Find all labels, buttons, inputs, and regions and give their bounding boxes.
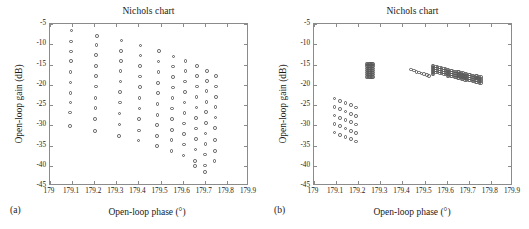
y-tick-mark (244, 105, 247, 106)
y-tick-mark (50, 85, 53, 86)
scatter-point (203, 153, 207, 157)
x-tick-mark (161, 24, 162, 27)
chart-title-a: Nichols chart (49, 6, 248, 16)
scatter-point (94, 64, 98, 68)
scatter-point (183, 101, 187, 105)
scatter-point (194, 148, 198, 152)
scatter-point (213, 126, 217, 130)
scatter-point (203, 170, 207, 174)
scatter-point (171, 65, 175, 69)
scatter-point (195, 64, 199, 68)
scatter-point (118, 90, 122, 94)
x-tick-mark (205, 181, 206, 184)
panel-label-a: (a) (10, 205, 21, 215)
x-tick-mark (138, 24, 139, 27)
x-tick-mark (72, 181, 73, 184)
scatter-point (69, 40, 73, 44)
x-tick-mark (425, 181, 426, 184)
scatter-point (194, 127, 198, 131)
scatter-point (333, 122, 337, 126)
x-tick-mark (358, 24, 359, 27)
scatter-point (156, 91, 160, 95)
chart-title-b: Nichols chart (313, 6, 512, 16)
scatter-point (344, 110, 348, 114)
scatter-point (117, 134, 121, 138)
x-tick-mark (94, 181, 95, 184)
panel-label-b: (b) (274, 205, 285, 215)
y-tick-mark (50, 105, 53, 106)
scatter-point (118, 123, 122, 127)
y-tick-mark (50, 125, 53, 126)
y-tick-mark (50, 146, 53, 147)
scatter-point (204, 132, 208, 136)
x-tick-mark (402, 24, 403, 27)
x-tick-mark (205, 24, 206, 27)
scatter-point (69, 101, 73, 105)
scatter-point (338, 124, 342, 128)
scatter-point (184, 59, 188, 63)
scatter-point (157, 70, 161, 74)
x-tick-mark (358, 181, 359, 184)
x-tick-mark (50, 181, 51, 184)
scatter-point (195, 95, 199, 99)
y-axis-title-b: Open-loop gain (dB) (278, 23, 288, 185)
x-tick-mark (116, 181, 117, 184)
scatter-point (203, 164, 207, 168)
scatter-point (344, 118, 348, 122)
scatter-point (70, 29, 74, 33)
scatter-point (195, 74, 199, 78)
scatter-point (204, 142, 208, 146)
scatter-point (213, 159, 217, 163)
y-tick-mark (244, 44, 247, 45)
x-tick-mark (380, 24, 381, 27)
scatter-point (68, 124, 72, 128)
scatter-point (194, 116, 198, 120)
y-tick-mark (50, 44, 53, 45)
scatter-point (338, 99, 342, 103)
scatter-point (69, 50, 73, 54)
scatter-point (349, 120, 353, 124)
plot-area-b (314, 24, 511, 184)
nichols-chart-figure: Nichols chart 179179.1179.2179.3179.4179… (0, 0, 529, 229)
scatter-point (157, 60, 161, 64)
scatter-point (171, 96, 175, 100)
y-tick-mark (244, 24, 247, 25)
x-tick-mark (491, 181, 492, 184)
y-tick-mark (314, 65, 317, 66)
scatter-point (138, 96, 142, 100)
x-tick-mark (469, 24, 470, 27)
y-tick-mark (244, 125, 247, 126)
x-axis-title-a: Open-loop phase (°) (40, 207, 254, 217)
scatter-point (371, 75, 375, 79)
panel-b: Nichols chart 179179.1179.2179.3179.4179… (265, 0, 529, 229)
scatter-point (333, 97, 337, 101)
scatter-point (214, 85, 218, 89)
scatter-point (68, 111, 72, 115)
x-tick-mark (469, 181, 470, 184)
scatter-point (120, 39, 124, 43)
scatter-point (354, 131, 358, 135)
y-tick-mark (314, 24, 317, 25)
scatter-point (344, 135, 348, 139)
scatter-point (183, 90, 187, 94)
x-tick-mark (138, 181, 139, 184)
scatter-point (205, 89, 209, 93)
scatter-point (333, 114, 337, 118)
scatter-point (137, 129, 141, 133)
scatter-point (214, 74, 218, 78)
scatter-point (69, 91, 73, 95)
scatter-point (95, 43, 99, 47)
y-tick-mark (50, 24, 53, 25)
y-tick-mark (508, 125, 511, 126)
scatter-point (156, 113, 160, 117)
scatter-point (172, 55, 176, 59)
scatter-point (118, 101, 122, 105)
plot-frame-b (313, 23, 512, 185)
scatter-point (205, 100, 209, 104)
scatter-point (170, 107, 174, 111)
y-tick-mark (508, 65, 511, 66)
scatter-point (205, 69, 209, 73)
y-tick-mark (508, 146, 511, 147)
y-tick-mark (50, 65, 53, 66)
y-tick-mark (314, 44, 317, 45)
